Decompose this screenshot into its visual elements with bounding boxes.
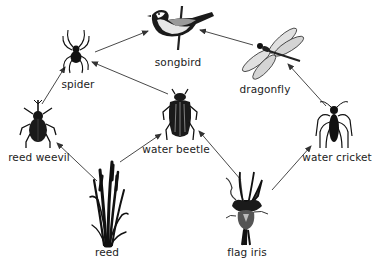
spider-icon: [63, 30, 89, 73]
dragonfly-icon: [237, 12, 310, 93]
organisms-layer: [0, 0, 377, 268]
label-songbird: songbird: [155, 56, 201, 68]
weevil-icon: [20, 100, 56, 148]
label-reed-weevil: reed weevil: [8, 151, 70, 163]
label-water-beetle: water beetle: [142, 143, 210, 155]
water-cricket-icon: [316, 102, 352, 148]
food-web-diagram: songbird spider dragonfly reed weevil wa…: [0, 0, 377, 268]
songbird-icon: [147, 6, 214, 50]
reed-plant-icon: [90, 162, 128, 245]
label-dragonfly: dragonfly: [240, 83, 291, 95]
label-water-cricket: water cricket: [302, 151, 372, 163]
label-flag-iris: flag iris: [227, 246, 267, 258]
iris-flower-icon: [226, 172, 268, 245]
label-reed: reed: [95, 246, 119, 258]
water-beetle-icon: [163, 89, 197, 140]
label-spider: spider: [61, 78, 94, 90]
